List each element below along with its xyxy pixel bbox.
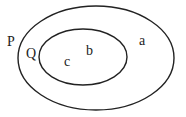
element-b-label: b xyxy=(86,43,93,58)
set-p-ellipse xyxy=(18,6,174,110)
element-a-label: a xyxy=(139,33,146,48)
set-q-ellipse xyxy=(39,29,127,85)
set-p-label: P xyxy=(7,34,15,49)
set-q-label: Q xyxy=(26,46,36,61)
element-c-label: c xyxy=(64,54,70,69)
venn-diagram: P Q c b a xyxy=(0,0,186,117)
